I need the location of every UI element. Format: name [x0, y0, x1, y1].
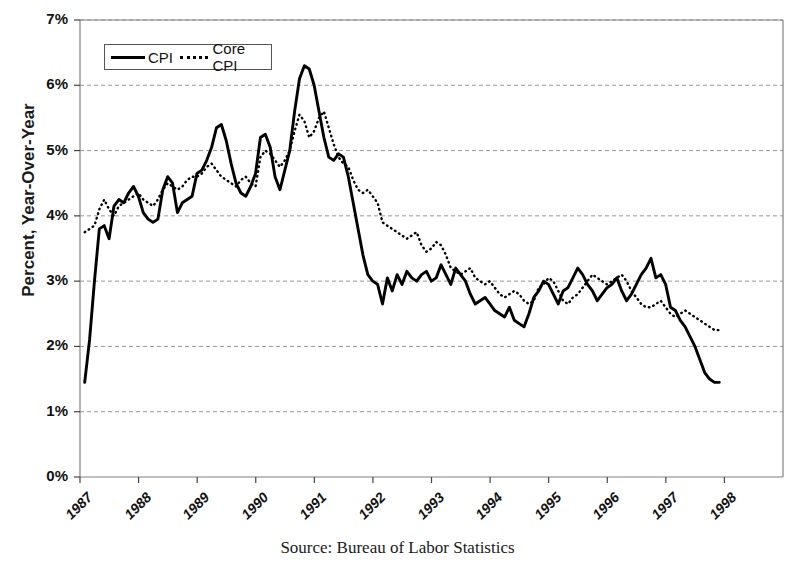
- chart-container: Percent, Year-Over-Year 0%1%2%3%4%5%6%7%…: [0, 0, 795, 573]
- y-tick-label: 7%: [20, 10, 68, 27]
- y-tick-label: 4%: [20, 206, 68, 223]
- y-tick-label: 6%: [20, 75, 68, 92]
- plot-area: [0, 0, 795, 573]
- chart-legend: CPI Core CPI: [104, 44, 272, 70]
- legend-label-cpi: CPI: [148, 49, 173, 66]
- y-tick-label: 0%: [20, 467, 68, 484]
- y-tick-label: 2%: [20, 336, 68, 353]
- legend-item-core-cpi: Core CPI: [173, 40, 271, 74]
- y-tick-label: 3%: [20, 271, 68, 288]
- legend-swatch-dotted-icon: [180, 56, 208, 59]
- series-line-cpi: [85, 66, 720, 383]
- legend-label-core-cpi: Core CPI: [212, 40, 271, 74]
- y-tick-label: 5%: [20, 141, 68, 158]
- source-caption: Source: Bureau of Labor Statistics: [0, 538, 795, 558]
- legend-swatch-solid-icon: [111, 56, 145, 59]
- y-tick-label: 1%: [20, 402, 68, 419]
- legend-item-cpi: CPI: [111, 49, 173, 66]
